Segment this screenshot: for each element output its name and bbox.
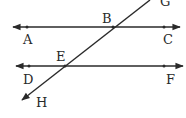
point-c [163, 26, 166, 29]
point-d [28, 65, 31, 68]
label-e: E [56, 49, 66, 64]
geometry-diagram: G B A C E D F H [0, 0, 186, 118]
label-b: B [102, 11, 112, 26]
label-a: A [22, 32, 33, 47]
label-d: D [23, 72, 33, 87]
point-a [26, 26, 29, 29]
transversal-gh [22, 0, 150, 100]
label-h: H [36, 95, 47, 110]
point-f [163, 65, 166, 68]
point-b [112, 26, 115, 29]
point-e [64, 65, 67, 68]
label-c: C [163, 32, 173, 47]
label-f: F [166, 72, 175, 87]
label-g: G [160, 0, 170, 9]
